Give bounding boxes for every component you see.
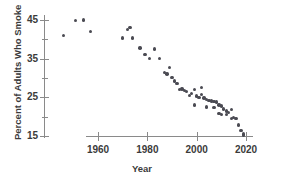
data-point [230, 108, 233, 111]
data-point [205, 105, 208, 108]
data-point [168, 66, 171, 69]
data-point [62, 34, 65, 37]
y-tick-40 [42, 39, 48, 40]
y-tick-45 [40, 20, 49, 21]
data-point [242, 134, 245, 137]
y-tick-20 [42, 117, 48, 118]
data-point [200, 93, 203, 96]
data-point [190, 92, 193, 95]
data-point [193, 103, 196, 106]
x-tick-label-1980: 1980 [127, 144, 167, 155]
data-point [153, 47, 156, 50]
x-axis-title: Year [0, 163, 284, 174]
data-point [128, 26, 131, 29]
data-point [175, 82, 178, 85]
x-tick-1960 [98, 132, 99, 141]
data-point [193, 88, 196, 91]
x-tick-label-2020: 2020 [226, 144, 266, 155]
data-point [89, 30, 92, 33]
y-tick-15 [40, 136, 49, 137]
data-point [237, 123, 240, 126]
data-point [158, 57, 161, 60]
y-tick-30 [42, 78, 48, 79]
data-point [131, 36, 134, 39]
data-point [170, 76, 173, 79]
data-point [234, 117, 237, 120]
data-point [165, 72, 168, 75]
data-point [82, 18, 85, 21]
y-tick-25 [40, 97, 49, 98]
data-point [185, 90, 188, 93]
data-point [212, 106, 215, 109]
x-tick-2000 [197, 132, 198, 141]
x-axis-line [86, 136, 254, 137]
x-tick-1980 [147, 132, 148, 141]
y-axis-title: Percent of Adults Who Smoke [12, 5, 23, 140]
x-tick-2020 [246, 132, 247, 141]
data-point [121, 36, 124, 39]
data-point [220, 113, 223, 116]
data-point [74, 19, 77, 22]
data-point [227, 111, 230, 114]
data-point [148, 57, 151, 60]
x-tick-label-1960: 1960 [78, 144, 118, 155]
y-axis-line [44, 15, 45, 137]
data-point [143, 53, 146, 56]
x-tick-label-2000: 2000 [177, 144, 217, 155]
y-tick-35 [40, 59, 49, 60]
scatter-plot: 15253545 1960198020002020 Percent of Adu… [0, 0, 284, 182]
data-point [138, 46, 141, 49]
data-point [200, 86, 203, 89]
data-point [197, 96, 200, 99]
